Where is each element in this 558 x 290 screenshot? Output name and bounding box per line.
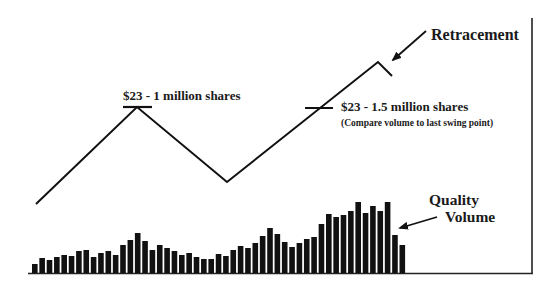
volume-bar xyxy=(135,233,141,273)
volume-bar xyxy=(304,239,310,273)
quality-label-line1: Quality xyxy=(429,191,479,208)
volume-bar xyxy=(311,237,317,273)
volume-bar xyxy=(245,248,251,273)
volume-bar xyxy=(157,245,163,273)
volume-bar xyxy=(83,250,89,273)
volume-bar xyxy=(363,213,369,273)
volume-bar xyxy=(69,256,75,273)
volume-bar xyxy=(54,257,60,273)
volume-bar xyxy=(348,211,354,273)
volume-bar xyxy=(91,257,97,273)
volume-bar xyxy=(194,257,200,273)
volume-bar xyxy=(260,236,266,273)
volume-bar xyxy=(106,251,112,273)
retracement-label: Retracement xyxy=(431,26,520,43)
volume-bar xyxy=(201,259,207,273)
volume-bar xyxy=(223,256,229,273)
volume-bar xyxy=(120,245,126,273)
volume-bar xyxy=(150,250,156,273)
volume-bar xyxy=(253,243,259,273)
volume-bar xyxy=(282,242,288,273)
volume-bar xyxy=(297,243,303,273)
volume-bar xyxy=(275,234,281,273)
volume-bar xyxy=(39,258,45,273)
price-swing-line xyxy=(36,62,392,204)
volume-bar xyxy=(98,253,104,273)
volume-bar xyxy=(319,224,325,273)
volume-bar xyxy=(32,264,38,273)
volume-bar xyxy=(289,247,295,273)
volume-bar xyxy=(230,250,236,273)
quality-label-line2: Volume xyxy=(445,208,495,225)
volume-bar xyxy=(267,228,273,273)
volume-bar xyxy=(400,245,406,273)
quality-volume-arrow-icon xyxy=(400,217,437,228)
volume-bar xyxy=(238,246,244,273)
second-level-note: (Compare volume to last swing point) xyxy=(341,118,493,129)
volume-bar xyxy=(113,255,119,273)
volume-bar xyxy=(216,254,222,273)
first-peak-label: $23 - 1 million shares xyxy=(123,88,241,103)
volume-bar xyxy=(179,255,185,273)
volume-bar xyxy=(142,241,148,273)
volume-bar xyxy=(47,260,53,273)
volume-bar xyxy=(392,235,398,273)
volume-bar xyxy=(128,240,134,273)
volume-bar xyxy=(186,253,192,273)
second-level-label: $23 - 1.5 million shares xyxy=(341,99,468,114)
volume-bar xyxy=(164,248,170,273)
volume-bar xyxy=(326,214,332,273)
volume-bar xyxy=(355,202,361,273)
volume-bar xyxy=(208,259,214,273)
retracement-arrow-icon xyxy=(393,31,426,60)
diagram-svg: $23 - 1 million shares $23 - 1.5 million… xyxy=(0,0,558,290)
volume-bar xyxy=(370,206,376,273)
volume-histogram xyxy=(32,202,405,273)
diagram-canvas: $23 - 1 million shares $23 - 1.5 million… xyxy=(0,0,558,290)
volume-bar xyxy=(61,255,67,273)
volume-bar xyxy=(172,251,178,273)
volume-bar xyxy=(377,211,383,273)
volume-bar xyxy=(341,215,347,273)
volume-bar xyxy=(333,217,339,273)
volume-bar xyxy=(385,202,391,273)
volume-bar xyxy=(76,251,82,273)
